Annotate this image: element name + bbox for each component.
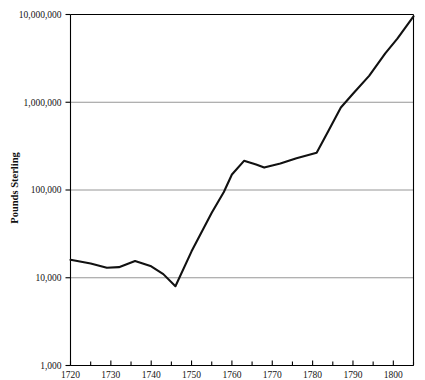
x-tick-label: 1750 <box>182 370 201 380</box>
x-tick-label: 1740 <box>142 370 161 380</box>
x-tick-group <box>71 361 414 366</box>
x-tick-label: 1720 <box>61 370 80 380</box>
y-tick-label: 100,000 <box>31 185 62 195</box>
x-tick-label: 1730 <box>101 370 120 380</box>
x-tick-label: 1760 <box>222 370 241 380</box>
y-tick-label: 1,000,000 <box>24 98 62 108</box>
chart-container: 1,00010,000100,0001,000,00010,000,000 17… <box>0 0 425 380</box>
gridlines-group <box>71 102 414 278</box>
y-tick-label: 10,000 <box>35 273 61 283</box>
series-group <box>71 16 414 286</box>
x-tick-label: 1770 <box>263 370 282 380</box>
x-tick-label: 1780 <box>303 370 322 380</box>
x-tick-labels: 172017301740175017601770178017901800 <box>61 370 403 380</box>
x-tick-label: 1790 <box>343 370 362 380</box>
y-tick-group <box>66 15 71 366</box>
y-axis-title: Pounds Sterling <box>9 152 20 224</box>
x-tick-label: 1800 <box>384 370 403 380</box>
line-chart: 1,00010,000100,0001,000,00010,000,000 17… <box>0 0 425 380</box>
series-line-pounds-sterling <box>71 16 414 286</box>
y-tick-labels: 1,00010,000100,0001,000,00010,000,000 <box>19 10 62 371</box>
y-tick-label: 10,000,000 <box>19 10 62 20</box>
y-tick-label: 1,000 <box>40 361 62 371</box>
